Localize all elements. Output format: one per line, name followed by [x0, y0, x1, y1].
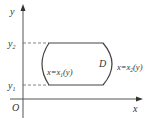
x-axis-arrow-icon	[136, 97, 143, 102]
x-axis-label: x	[132, 103, 138, 114]
y1-label: y1	[7, 80, 15, 92]
y2-label: y2	[7, 38, 15, 50]
origin-label: O	[12, 102, 19, 113]
diagram-canvas: y x O y2 y1 D x=x1(y) x=x2(y)	[0, 0, 157, 127]
right-boundary-label: x=x2(y)	[116, 62, 143, 73]
y-axis-arrow-icon	[21, 4, 26, 11]
region-d-label: D	[98, 58, 107, 69]
y-axis-label: y	[9, 6, 15, 17]
left-boundary-label: x=x1(y)	[46, 67, 73, 78]
